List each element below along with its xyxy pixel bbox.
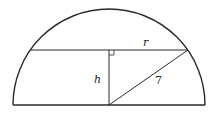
label-h: h	[94, 73, 101, 86]
right-angle-marker	[109, 50, 114, 55]
label-r: r	[143, 36, 149, 49]
radius-diagonal	[109, 50, 188, 105]
semicircle-diagram: r h 7	[0, 0, 215, 114]
label-7: 7	[155, 74, 162, 87]
